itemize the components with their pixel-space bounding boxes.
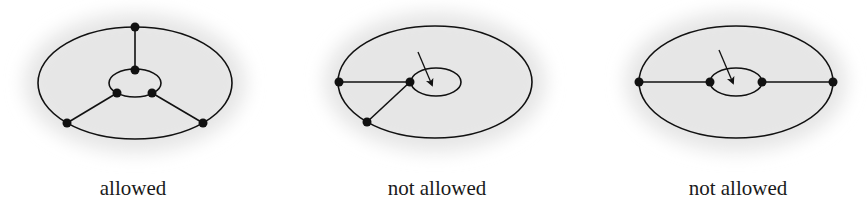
vertex-dot: [706, 78, 715, 87]
caption-panel-3: not allowed: [638, 176, 838, 201]
vertex-dot: [335, 78, 344, 87]
vertex-dot: [131, 23, 140, 32]
diagram-panel-3: [625, 12, 847, 152]
caption-panel-2: not allowed: [337, 176, 537, 201]
vertex-dot: [131, 66, 140, 75]
vertex-dot: [363, 118, 372, 127]
caption-panel-1: allowed: [33, 176, 233, 201]
vertex-dot: [635, 78, 644, 87]
vertex-dot: [829, 78, 838, 87]
vertex-dot: [758, 78, 767, 87]
vertex-dot: [63, 119, 72, 128]
vertex-dot: [148, 89, 157, 98]
vertex-dot: [406, 78, 415, 87]
vertex-dot: [199, 119, 208, 128]
vertex-dot: [113, 89, 122, 98]
diagram-panel-1: [24, 13, 246, 153]
diagram-panel-2: [324, 12, 546, 152]
